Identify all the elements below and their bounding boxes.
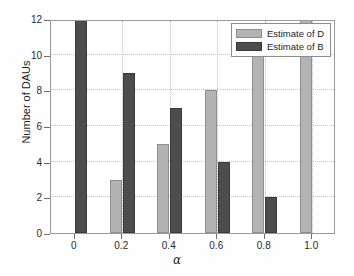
x-tick-mark — [74, 234, 75, 239]
x-tick-label: 0 — [71, 240, 77, 251]
bar — [110, 180, 122, 234]
bar — [157, 144, 169, 233]
x-tick-label: 1.0 — [304, 240, 318, 251]
legend-item: Estimate of B — [236, 40, 326, 53]
y-tick-label: 10 — [31, 51, 42, 61]
bar — [265, 197, 277, 233]
x-tick-label: 0.4 — [162, 240, 176, 251]
x-tick-label: 0.2 — [114, 240, 128, 251]
legend-label: Estimate of B — [267, 41, 324, 52]
bar — [205, 90, 217, 233]
gridline-horizontal — [51, 89, 334, 90]
x-tick-label: 0.8 — [257, 240, 271, 251]
x-tick-label: 0.6 — [209, 240, 223, 251]
gridline-horizontal — [51, 196, 334, 197]
legend-swatch — [236, 29, 262, 38]
x-axis-title: α — [0, 253, 354, 267]
legend-item: Estimate of D — [236, 27, 326, 40]
bar — [75, 20, 87, 233]
alpha-symbol: α — [173, 253, 181, 267]
y-tick-label: 12 — [31, 15, 42, 25]
x-tick-mark — [264, 234, 265, 239]
legend-swatch — [236, 42, 262, 51]
y-tick-label: 0 — [36, 229, 42, 239]
x-tick-mark — [311, 234, 312, 239]
y-tick-label: 6 — [36, 122, 42, 132]
gridline-horizontal — [51, 125, 334, 126]
chart-legend: Estimate of DEstimate of B — [231, 23, 331, 57]
y-tick-label: 8 — [36, 86, 42, 96]
figure-canvas: Number of DAUs 024681012 00.20.40.60.81.… — [0, 0, 354, 276]
y-tick-mark — [44, 234, 50, 235]
x-tick-mark — [216, 234, 217, 239]
bar — [170, 108, 182, 233]
x-tick-mark — [121, 234, 122, 239]
legend-label: Estimate of D — [267, 28, 324, 39]
y-tick-label: 2 — [36, 193, 42, 203]
y-tick-label: 4 — [36, 158, 42, 168]
bar — [252, 55, 264, 233]
bar — [218, 162, 230, 233]
gridline-horizontal — [51, 161, 334, 162]
x-tick-mark — [169, 234, 170, 239]
bar — [123, 73, 135, 234]
